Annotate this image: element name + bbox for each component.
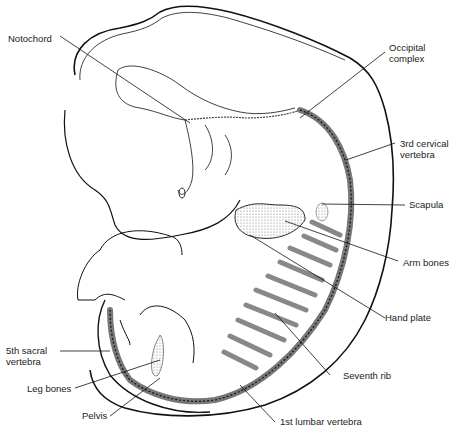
label-5th-sacral-2: vertebra [6,356,41,367]
label-hand-plate: Hand plate [385,312,431,323]
label-seventh-rib: Seventh rib [343,370,391,381]
label-arm-bones: Arm bones [403,257,449,268]
label-pelvis: Pelvis [82,410,107,421]
label-5th-sacral-1: 5th sacral [6,345,47,356]
label-scapula: Scapula [409,199,443,210]
label-occipital-complex-2: complex [389,53,424,64]
label-leg-bones: Leg bones [27,383,71,394]
label-occipital-complex-1: Occipital [389,42,425,53]
label-3rd-cervical-1: 3rd cervical [400,138,449,149]
embryo-diagram [0,0,466,440]
label-1st-lumbar: 1st lumbar vertebra [280,416,362,427]
label-3rd-cervical-2: vertebra [400,149,435,160]
label-notochord: Notochord [8,33,52,44]
